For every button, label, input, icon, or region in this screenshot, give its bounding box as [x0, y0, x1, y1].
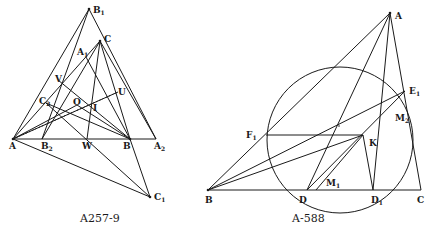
point-C1 [149, 196, 152, 199]
segment-D-E1 [307, 91, 405, 190]
label-V: V [54, 74, 63, 84]
figure-caption-a-588: A-588 [291, 212, 325, 225]
label-C: C [104, 34, 111, 44]
point-A [389, 12, 392, 15]
center-mark [338, 125, 340, 127]
label-W: W [81, 141, 93, 151]
label-A1: A1 [76, 47, 88, 58]
label-C2: C2 [39, 96, 50, 107]
point-B [207, 189, 210, 192]
label-I: I [93, 103, 97, 113]
segment-C-A2 [100, 41, 156, 139]
label-U: U [118, 87, 126, 97]
label-B2: B2 [41, 141, 53, 152]
figure-caption-a257-9: A257-9 [79, 212, 120, 225]
label-K: K [369, 138, 378, 148]
label-A: A [8, 141, 17, 151]
label-B: B [123, 141, 131, 151]
point-B [129, 138, 132, 141]
label-C1: C1 [154, 192, 165, 203]
point-C [99, 40, 102, 43]
segment-C-W [87, 41, 100, 139]
label-E1: E1 [409, 86, 420, 97]
label-C: C [417, 195, 424, 205]
figure-a-588: A E1 M2 F1 K B D M1 D1 C A-588 [205, 11, 424, 225]
label-M2: M2 [395, 113, 409, 124]
segment-C-B2 [42, 41, 100, 139]
label-B: B [205, 195, 213, 205]
segment-A-B [208, 13, 390, 190]
label-A: A [394, 11, 403, 21]
segment-O-B [77, 105, 130, 139]
point-A [12, 138, 15, 141]
label-F1: F1 [246, 130, 257, 141]
geometry-figures: B1 C A1 V U C2 O I A B2 W B A2 C1 A257-9 [0, 0, 431, 231]
segment-A-B1 [13, 9, 89, 139]
label-A2: A2 [153, 141, 165, 152]
point-B1 [88, 8, 91, 11]
label-O: O [73, 97, 81, 107]
label-D: D [299, 195, 307, 205]
label-D1: D1 [371, 195, 383, 206]
label-B1: B1 [93, 5, 105, 16]
segment-A-D [307, 13, 390, 190]
figure-a257-9: B1 C A1 V U C2 O I A B2 W B A2 C1 A257-9 [8, 5, 165, 225]
circle [267, 67, 413, 213]
label-M1: M1 [326, 178, 340, 189]
segment-A-D1 [373, 13, 390, 190]
